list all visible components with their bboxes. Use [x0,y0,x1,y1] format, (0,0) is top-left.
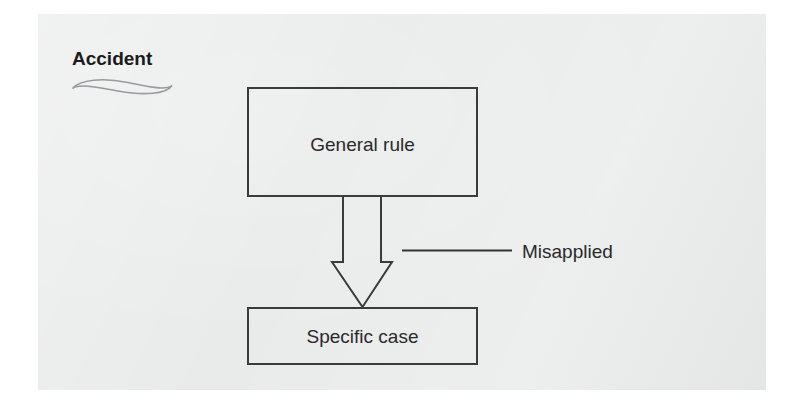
node-specific-case: Specific case [248,308,477,364]
diagram-screenshot: Accident General rule Specific case Misa… [0,0,806,419]
squiggle-icon [73,80,173,94]
misapplied-label: Misapplied [522,241,613,262]
callout-misapplied: Misapplied [402,241,613,262]
edge-general-to-specific [332,196,392,307]
node-general-rule: General rule [248,88,477,196]
diagram-canvas: Accident General rule Specific case Misa… [0,0,806,419]
specific-case-label: Specific case [307,326,419,347]
general-rule-label: General rule [310,134,415,155]
accident-label: Accident [72,48,153,69]
